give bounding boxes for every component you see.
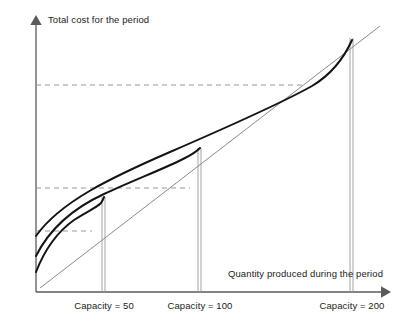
- capacity-label-200: Capacity = 200: [306, 300, 398, 311]
- capacity-line-100: [198, 148, 201, 292]
- y-axis-title: Total cost for the period: [48, 14, 149, 25]
- x-axis-title: Quantity produced during the period: [228, 268, 383, 279]
- cost-curve-capacity-100: [36, 148, 200, 256]
- chart-canvas: [0, 0, 418, 329]
- capacity-line-50: [102, 197, 105, 292]
- capacity-line-200: [350, 38, 353, 292]
- chart-figure: Total cost for the period Quantity produ…: [0, 0, 418, 329]
- capacity-label-50: Capacity = 50: [61, 300, 147, 311]
- cost-curve-capacity-200: [36, 40, 352, 236]
- long-run-envelope-line: [40, 26, 380, 288]
- capacity-label-100: Capacity = 100: [154, 300, 246, 311]
- cost-curve-capacity-50: [36, 197, 104, 272]
